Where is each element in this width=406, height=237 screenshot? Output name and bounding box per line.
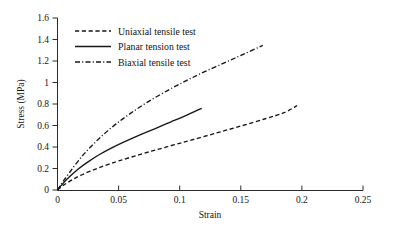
curve-uniaxial [58,106,298,190]
x-tick-label: 0.05 [110,195,127,205]
x-tick-label: 0 [55,195,60,205]
chart-legend: Uniaxial tensile testPlanar tension test… [75,26,196,68]
x-tick-label: 0.2 [296,195,308,205]
chart-canvas: 00.20.40.60.811.21.41.6 Stress (MPa) 00.… [0,0,406,237]
x-axis-ticks [58,186,364,191]
legend-item-label: Planar tension test [118,41,190,52]
y-axis-ticks [53,18,58,190]
y-axis-title: Stress (MPa) [16,79,27,128]
legend-item-uniaxial: Uniaxial tensile test [75,26,196,37]
x-tick-label: 0.15 [232,195,249,205]
y-tick-label: 0.8 [37,99,49,109]
legend-item-biaxial: Biaxial tensile test [75,57,191,68]
y-tick-label: 0.6 [37,121,49,131]
y-axis-tick-labels: 00.20.40.60.811.21.41.6 [37,13,49,195]
y-tick-label: 0.2 [37,164,49,174]
legend-item-label: Uniaxial tensile test [118,26,196,37]
y-tick-label: 1.6 [37,13,49,23]
y-tick-label: 0 [44,185,49,195]
x-axis-tick-labels: 00.050.10.150.20.25 [55,195,371,205]
x-tick-label: 0.1 [174,195,186,205]
y-tick-label: 0.4 [37,142,49,152]
stress-strain-chart: 00.20.40.60.811.21.41.6 Stress (MPa) 00.… [0,0,406,237]
x-axis-title: Strain [199,210,222,220]
y-axis-group: 00.20.40.60.811.21.41.6 Stress (MPa) [16,13,58,195]
y-tick-label: 1.4 [37,35,49,45]
x-tick-label: 0.25 [355,195,372,205]
x-axis-group: 00.050.10.150.20.25 Strain [55,186,371,221]
legend-item-label: Biaxial tensile test [118,57,191,68]
curve-planar [58,108,202,190]
y-tick-label: 1 [44,78,49,88]
legend-item-planar: Planar tension test [75,41,190,52]
y-tick-label: 1.2 [37,56,49,66]
